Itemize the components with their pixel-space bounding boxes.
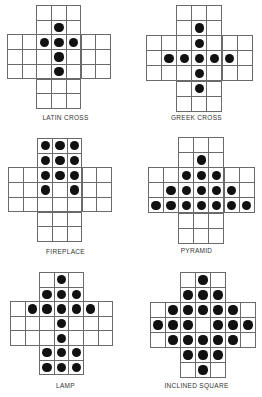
peg-icon [183,290,192,299]
peg-icon [72,304,81,313]
board-hole [206,81,222,97]
board-hole [68,272,84,288]
board-hole [10,330,26,346]
board-hole [23,197,39,213]
peg-icon [151,201,160,210]
board-hole [176,35,192,51]
board-hole [39,330,55,346]
board-hole [66,20,82,36]
board-hole [81,49,97,65]
board-hole [208,213,224,229]
board-hole [240,302,256,318]
peg-icon [55,171,64,180]
board-hole [146,35,162,51]
board-hole [222,35,238,51]
peg-icon [210,54,219,63]
board-hole [240,332,256,348]
board-hole [237,50,253,66]
board-hole [66,64,82,80]
board-hole [206,20,222,36]
board-hole [7,34,23,50]
board-hole [37,226,53,242]
board-hole [206,65,222,81]
peg-icon [57,334,66,343]
puzzle-label: INCLINED SQUARE [131,382,262,389]
board-hole [161,35,177,51]
board-hole [22,34,38,50]
board-hole [161,65,177,81]
board-hole [239,182,255,198]
board-hole [178,152,194,168]
peg-icon [72,290,81,299]
board-hole [36,93,52,109]
board-hole [178,213,194,229]
board-hole [98,316,114,332]
board-hole [206,96,222,112]
peg-icon [164,54,173,63]
peg-icon [41,185,50,194]
peg-icon [195,54,204,63]
board-hole [95,49,111,65]
board-hole [52,182,68,198]
board-hole [150,332,166,348]
peg-icon [213,290,222,299]
peg-icon [86,304,95,313]
board-hole [66,93,82,109]
peg-icon [41,171,50,180]
board-hole [208,137,224,153]
peg-icon [42,304,51,313]
board-hole [180,272,196,288]
board-hole [146,65,162,81]
peg-icon [55,156,64,165]
board-hole [237,35,253,51]
board-hole [66,49,82,65]
board-hole [150,302,166,318]
peg-icon [197,201,206,210]
peg-icon [69,38,78,47]
board-hole [95,34,111,50]
board-hole [176,65,192,81]
board-hole [37,212,53,228]
peg-icon [57,363,66,372]
peg-icon [168,335,177,344]
board-hole [82,197,98,213]
peg-icon [197,171,206,180]
board-hole [224,167,240,183]
board-hole [36,64,52,80]
peg-icon [41,156,50,165]
peg-icon [57,304,66,313]
peg-icon [55,141,64,150]
board-hole [22,49,38,65]
peg-icon [228,320,237,329]
peg-icon [54,52,63,61]
board-hole [66,79,82,95]
board-hole [208,228,224,244]
board-hole [163,167,179,183]
board-hole [66,5,82,21]
board-hole [36,49,52,65]
peg-icon [198,335,207,344]
board-hole [7,49,23,65]
peg-icon [212,186,221,195]
board-hole [176,5,192,21]
peg-icon [198,365,207,374]
board-hole [210,362,226,378]
board-hole [193,228,209,244]
board-hole [22,64,38,80]
board-hole [208,152,224,168]
board-hole [8,182,24,198]
board-hole [52,212,68,228]
peg-icon [168,320,177,329]
peg-icon [72,348,81,357]
board-hole [191,96,207,112]
peg-icon [198,305,207,314]
board-hole [52,197,68,213]
board-hole [39,316,55,332]
board-hole [25,330,41,346]
peg-icon [57,290,66,299]
peg-icon [183,320,192,329]
peg-icon [166,201,175,210]
board-hole [176,96,192,112]
board-hole [193,213,209,229]
peg-icon [54,67,63,76]
